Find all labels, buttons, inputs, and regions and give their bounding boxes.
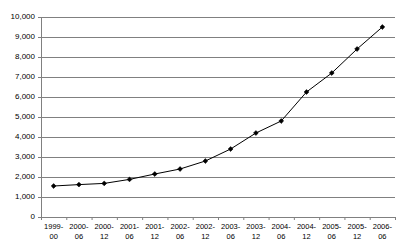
chart-canvas [0,0,408,250]
y-axis-label: 10,000 [0,12,35,21]
y-axis-label: 0 [0,212,35,221]
data-point-marker [178,167,183,172]
y-axis-label: 4,000 [0,132,35,141]
data-point-marker [77,182,82,187]
x-axis-label: 1999- 00 [41,222,66,241]
x-axis-label: 2004- 06 [269,222,294,241]
line-chart: 10,0009,0008,0007,0006,0005,0004,0003,00… [0,0,408,250]
data-point-marker [51,184,56,189]
x-axis-label: 2002- 06 [167,222,192,241]
y-axis-label: 7,000 [0,72,35,81]
y-axis-label: 6,000 [0,92,35,101]
x-axis-label: 2001- 06 [117,222,142,241]
x-axis-label: 2000- 06 [66,222,91,241]
x-axis-label: 2003- 12 [243,222,268,241]
data-point-marker [203,159,208,164]
data-point-marker [254,131,259,136]
x-axis-label: 2002- 12 [193,222,218,241]
x-axis-label: 2006- 06 [370,222,395,241]
x-axis-label: 2003- 06 [218,222,243,241]
y-axis-label: 5,000 [0,112,35,121]
x-axis-label: 2005- 12 [344,222,369,241]
data-point-marker [102,181,107,186]
data-point-marker [228,147,233,152]
y-axis-label: 1,000 [0,192,35,201]
series-line [54,27,383,186]
x-axis-label: 2005- 06 [319,222,344,241]
x-axis-label: 2001- 12 [142,222,167,241]
x-axis-label: 2004- 12 [294,222,319,241]
data-point-marker [152,172,157,177]
y-axis-label: 9,000 [0,32,35,41]
x-axis-label: 2000- 12 [92,222,117,241]
y-axis-label: 8,000 [0,52,35,61]
y-axis-label: 2,000 [0,172,35,181]
y-axis-label: 3,000 [0,152,35,161]
